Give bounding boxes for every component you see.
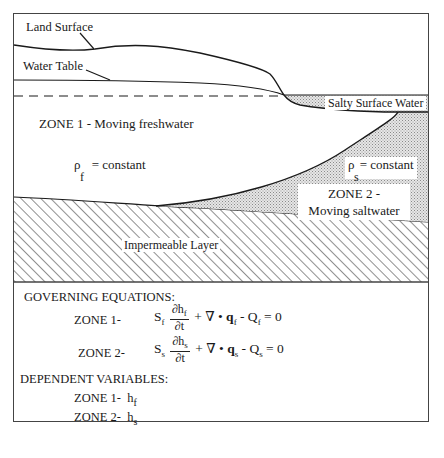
- rho-subscript: s: [354, 170, 359, 185]
- water-table-line: [14, 80, 284, 95]
- zone2-subtitle: Moving saltwater: [298, 202, 410, 219]
- equation-zone2-label: ZONE 2-: [78, 346, 125, 361]
- dependent-variables-heading: DEPENDENT VARIABLES:: [20, 372, 168, 387]
- equation-zone1-label: ZONE 1-: [74, 313, 121, 328]
- land-surface-leader: [80, 33, 94, 49]
- density-value: = constant: [360, 157, 414, 172]
- water-table-label: Water Table: [23, 60, 83, 73]
- zone2-title: ZONE 2 -: [298, 185, 410, 202]
- governing-equations-heading: GOVERNING EQUATIONS:: [24, 290, 175, 305]
- aquifer-cross-section: [0, 0, 444, 290]
- saltwater-density-label: ρs = constant: [345, 157, 417, 179]
- dependent-variable-zone1: ZONE 1- hf: [74, 391, 137, 408]
- salty-surface-water-label: Salty Surface Water: [325, 96, 426, 110]
- partial-derivative: ∂hs ∂t: [170, 335, 189, 364]
- rho-subscript: f: [80, 170, 84, 185]
- equation-zone2: Ss ∂hs ∂t + ∇ • qs - Qs = 0: [154, 335, 284, 364]
- freshwater-density-label: ρf = constant: [74, 157, 146, 173]
- dependent-variable-zone2: ZONE 2- hs: [74, 410, 137, 427]
- equation-zone1: Sf ∂hf ∂t + ∇ • qf - Qf = 0: [154, 303, 282, 332]
- zone1-label: ZONE 1 - Moving freshwater: [39, 117, 194, 130]
- density-value: = constant: [92, 157, 146, 172]
- land-surface-label: Land Surface: [26, 21, 93, 34]
- partial-derivative: ∂hf ∂t: [170, 303, 189, 332]
- impermeable-layer-label: Impermeable Layer: [122, 238, 220, 252]
- water-table-leader: [86, 70, 110, 80]
- zone2-label: ZONE 2 - Moving saltwater: [298, 184, 410, 220]
